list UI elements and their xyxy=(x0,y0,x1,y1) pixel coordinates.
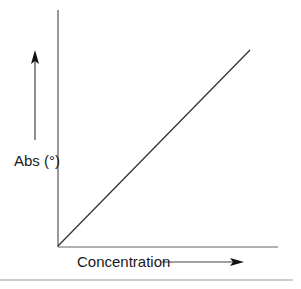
right-arrow-icon xyxy=(162,258,244,266)
up-arrow-icon xyxy=(31,50,39,140)
data-line xyxy=(58,50,250,246)
x-axis-label: Concentration xyxy=(77,253,170,270)
chart-canvas xyxy=(0,0,301,289)
y-axis-label: Abs (°) xyxy=(14,152,60,169)
